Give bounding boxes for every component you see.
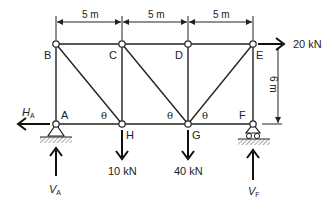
node-label-d: D [175,50,183,61]
truss-members [56,44,253,124]
dimension-height: 6 m [268,76,278,93]
angle-theta-g-right: θ [202,111,208,121]
load-label-10kn: 10 kN [108,166,137,177]
dimension-lines [56,16,282,124]
angle-theta-h: θ [101,111,107,121]
reaction-label-va: VA [49,184,61,196]
node-label-g: G [192,130,201,141]
angle-theta-g-left: θ [167,111,173,121]
node-label-e: E [256,50,263,61]
dimension-span-1: 5 m [82,10,99,20]
reaction-label-vf: VF [248,186,260,198]
reaction-label-ha: HA [22,107,35,119]
load-label-40kn: 40 kN [174,166,203,177]
load-label-20kn: 20 kN [293,39,322,50]
node-label-b: B [44,50,51,61]
node-label-c: C [109,50,117,61]
dimension-span-3: 5 m [213,10,230,20]
dimension-span-2: 5 m [148,10,165,20]
node-label-f: F [239,110,246,121]
node-label-a: A [61,110,68,121]
truss-diagram [0,0,332,212]
node-label-h: H [126,130,134,141]
